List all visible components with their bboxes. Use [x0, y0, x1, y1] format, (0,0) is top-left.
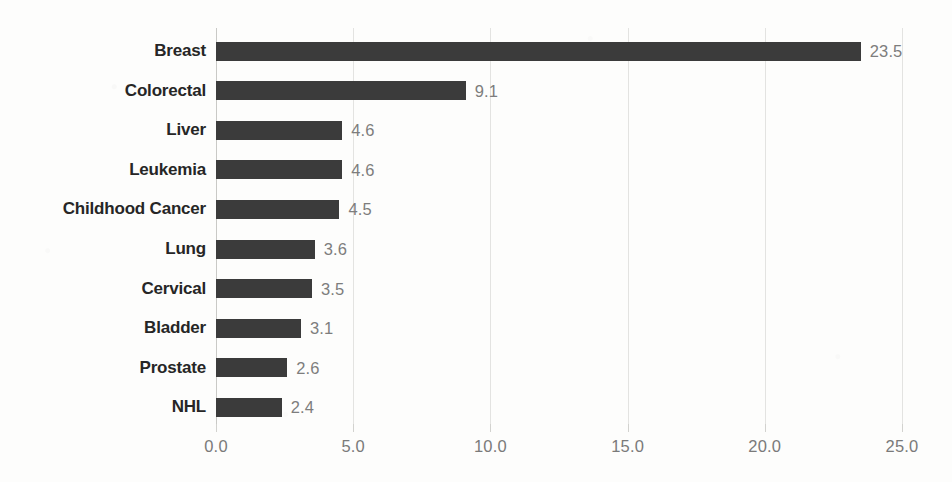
bar-value-label: 2.4: [291, 398, 314, 417]
bar-value-label: 4.6: [351, 160, 374, 179]
x-tick-mark: [216, 424, 217, 432]
bar-row: 23.5: [216, 42, 902, 61]
x-tick-label: 15.0: [611, 437, 644, 456]
bar: [216, 398, 282, 417]
bar-row: 4.5: [216, 200, 902, 219]
plot-area: 23.59.14.64.64.53.63.53.12.62.4: [216, 28, 902, 424]
category-label-row: Breast: [0, 42, 206, 61]
x-tick-label: 20.0: [748, 437, 781, 456]
bar-row: 3.5: [216, 279, 902, 298]
category-label-row: Liver: [0, 121, 206, 140]
bar-value-label: 3.5: [321, 279, 344, 298]
gridline: [902, 28, 903, 424]
category-label: Bladder: [144, 318, 206, 338]
bar: [216, 81, 466, 100]
x-tick-mark: [628, 424, 629, 432]
bar-chart: 23.59.14.64.64.53.63.53.12.62.4 BreastCo…: [0, 0, 952, 482]
bar-value-label: 4.6: [351, 121, 374, 140]
category-label-row: NHL: [0, 398, 206, 417]
bar: [216, 279, 312, 298]
category-label-row: Lung: [0, 240, 206, 259]
x-tick-label: 10.0: [474, 437, 507, 456]
x-tick-mark: [765, 424, 766, 432]
bar-value-label: 23.5: [870, 42, 903, 61]
category-label: Lung: [165, 239, 206, 259]
category-label: Liver: [166, 120, 206, 140]
bar-row: 2.6: [216, 358, 902, 377]
category-label-row: Cervical: [0, 279, 206, 298]
category-label: Leukemia: [129, 160, 206, 180]
bar-row: 2.4: [216, 398, 902, 417]
category-label-row: Prostate: [0, 358, 206, 377]
category-label-row: Childhood Cancer: [0, 200, 206, 219]
x-tick-mark: [490, 424, 491, 432]
bar: [216, 121, 342, 140]
bar-value-label: 3.6: [324, 240, 347, 259]
bar-value-label: 4.5: [348, 200, 371, 219]
category-label: NHL: [172, 397, 206, 417]
category-label-row: Colorectal: [0, 81, 206, 100]
bar-value-label: 3.1: [310, 319, 333, 338]
bar-row: 4.6: [216, 160, 902, 179]
category-label-row: Leukemia: [0, 160, 206, 179]
category-label: Cervical: [141, 279, 206, 299]
x-tick-label: 0.0: [204, 437, 228, 456]
bar: [216, 240, 315, 259]
bar-value-label: 9.1: [475, 81, 498, 100]
bar: [216, 319, 301, 338]
x-tick-mark: [902, 424, 903, 432]
category-label-row: Bladder: [0, 319, 206, 338]
bar: [216, 200, 339, 219]
category-label: Breast: [154, 41, 206, 61]
x-tick-label: 25.0: [886, 437, 919, 456]
bar-row: 9.1: [216, 81, 902, 100]
bar-row: 4.6: [216, 121, 902, 140]
bar-row: 3.1: [216, 319, 902, 338]
bar: [216, 160, 342, 179]
category-label: Childhood Cancer: [63, 199, 206, 219]
category-label: Colorectal: [125, 81, 206, 101]
bar: [216, 42, 861, 61]
x-tick-mark: [353, 424, 354, 432]
category-label: Prostate: [140, 358, 206, 378]
x-tick-label: 5.0: [341, 437, 365, 456]
bar: [216, 358, 287, 377]
bar-value-label: 2.6: [296, 358, 319, 377]
bar-row: 3.6: [216, 240, 902, 259]
